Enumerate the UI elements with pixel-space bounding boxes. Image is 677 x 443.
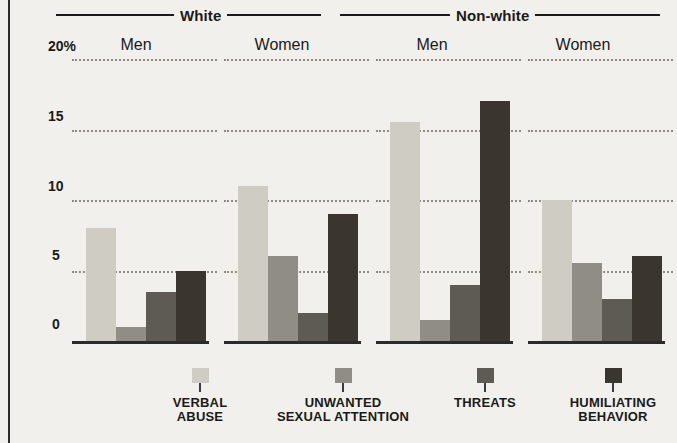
bar-nonwhite-men-series-0 <box>390 122 420 341</box>
baseline-axis <box>376 341 513 344</box>
bar-white-women-series-0 <box>238 186 268 341</box>
y-tick-10: 10 <box>48 178 64 194</box>
legend-item-0[interactable]: VERBAL ABUSE <box>140 368 260 424</box>
y-tick-5: 5 <box>52 247 60 263</box>
gridline-20 <box>528 59 673 61</box>
plot-panel-nonwhite-women <box>528 0 673 347</box>
baseline-axis <box>72 341 209 344</box>
legend-label: THREATS <box>430 396 540 410</box>
bar-nonwhite-women-series-1 <box>572 263 602 341</box>
legend-swatch-icon <box>192 368 209 383</box>
y-tick-0: 0 <box>52 316 60 332</box>
gridline-15 <box>224 130 369 132</box>
legend-swatch-icon <box>605 368 622 383</box>
bar-nonwhite-women-series-2 <box>602 299 632 341</box>
bar-white-men-series-1 <box>116 327 146 341</box>
bar-white-men-series-3 <box>176 271 206 342</box>
bar-nonwhite-women-series-3 <box>632 256 662 341</box>
legend-label: HUMILIATING BEHAVIOR <box>548 396 677 424</box>
bar-white-women-series-2 <box>298 313 328 341</box>
legend-item-1[interactable]: UNWANTED SEXUAL ATTENTION <box>268 368 418 424</box>
plot-panel-white-men <box>72 0 217 347</box>
left-border-rule <box>8 0 10 443</box>
legend-stem <box>199 383 201 392</box>
gridline-20 <box>72 59 217 61</box>
baseline-axis <box>224 341 361 344</box>
plot-panel-nonwhite-men <box>376 0 521 347</box>
bar-white-men-series-2 <box>146 292 176 341</box>
y-tick-15: 15 <box>48 108 64 124</box>
legend-swatch-icon <box>335 368 352 383</box>
bar-nonwhite-women-series-0 <box>542 200 572 341</box>
gridline-10 <box>72 200 217 202</box>
legend-label: UNWANTED SEXUAL ATTENTION <box>268 396 418 424</box>
bar-nonwhite-men-series-1 <box>420 320 450 341</box>
bar-nonwhite-men-series-2 <box>450 285 480 341</box>
bar-nonwhite-men-series-3 <box>480 101 510 341</box>
gridline-20 <box>376 59 521 61</box>
gridline-15 <box>72 130 217 132</box>
gridline-15 <box>528 130 673 132</box>
baseline-axis <box>528 341 665 344</box>
legend-stem <box>484 383 486 392</box>
legend-label: VERBAL ABUSE <box>140 396 260 424</box>
gridline-20 <box>224 59 369 61</box>
plot-panel-white-women <box>224 0 369 347</box>
legend-stem <box>612 383 614 392</box>
legend-item-3[interactable]: HUMILIATING BEHAVIOR <box>548 368 677 424</box>
legend-swatch-icon <box>477 368 494 383</box>
legend-item-2[interactable]: THREATS <box>430 368 540 410</box>
legend-stem <box>342 383 344 392</box>
bar-white-women-series-1 <box>268 256 298 341</box>
bar-white-women-series-3 <box>328 214 358 341</box>
bar-white-men-series-0 <box>86 228 116 341</box>
